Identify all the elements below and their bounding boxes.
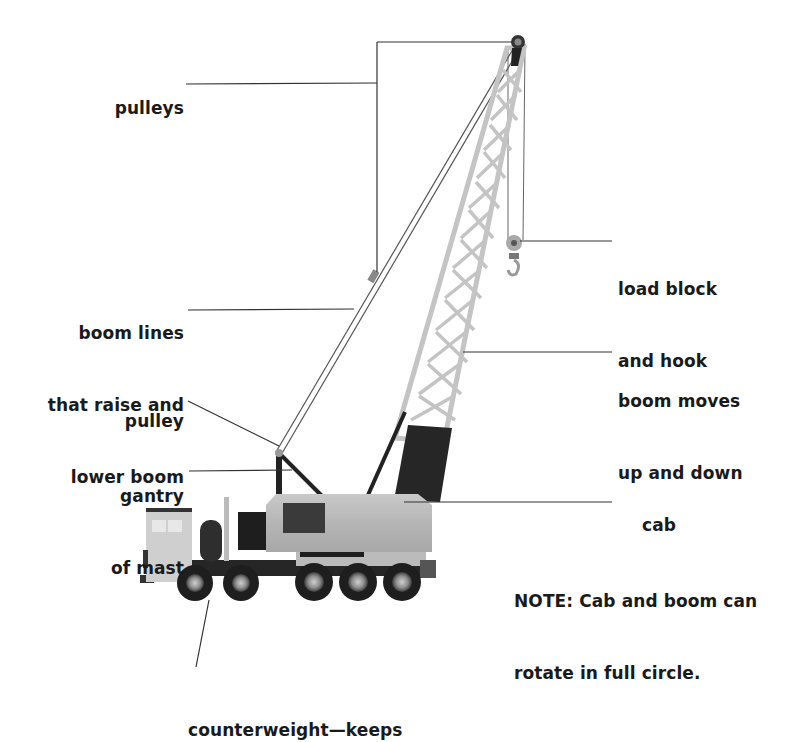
boom — [394, 35, 525, 502]
truck — [140, 494, 436, 601]
label-pulley-text: pulley — [125, 411, 184, 431]
gantry — [275, 412, 405, 496]
label-boom-moves-line-1: boom moves — [618, 389, 743, 413]
label-counterweight: counterweight—keeps crane from being pul… — [188, 670, 447, 742]
note: NOTE: Cab and boom can rotate in full ci… — [514, 541, 757, 733]
label-load-block-line-1: load block — [618, 277, 717, 301]
label-gantry-line-1: gantry — [60, 484, 184, 508]
label-gantry: gantry of mast — [60, 436, 184, 628]
load-block — [506, 235, 522, 275]
label-cab-text: cab — [642, 515, 676, 535]
note-line-1: NOTE: Cab and boom can — [514, 589, 757, 613]
note-line-2: rotate in full circle. — [514, 661, 757, 685]
label-pulleys-text: pulleys — [115, 98, 184, 118]
crane-diagram: pulleys boom lines that raise and lower … — [0, 0, 809, 742]
label-counterweight-line-1: counterweight—keeps — [188, 718, 447, 742]
label-boom-moves-line-2: up and down — [618, 461, 743, 485]
label-boom-lines-line-1: boom lines — [20, 321, 184, 345]
label-pulleys: pulleys — [60, 72, 184, 144]
label-gantry-line-2: of mast — [60, 556, 184, 580]
